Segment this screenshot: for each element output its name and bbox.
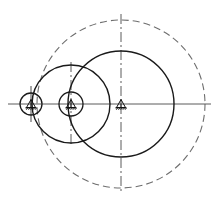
support-triangle-icon-middle <box>66 100 77 110</box>
support-triangle-icon-right <box>116 100 127 110</box>
drawing-svg <box>0 0 219 199</box>
technical-drawing-canvas <box>0 0 219 199</box>
support-triangle-icon-left <box>26 100 37 110</box>
